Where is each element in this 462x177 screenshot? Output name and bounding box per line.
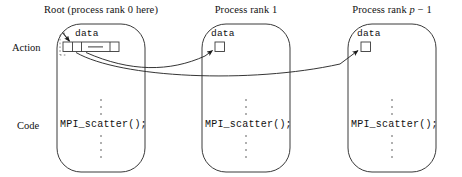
code-line-root: MPI_scatter(); [60,119,147,130]
root-buffer-pointer-icon [63,33,70,42]
data-buffer-rank1 [215,42,225,52]
vertical-ellipsis-root-top [100,99,102,115]
row-label-action: Action [12,42,41,53]
vertical-ellipsis-root-bottom [100,135,102,158]
vertical-ellipsis-rank1-top [245,99,247,115]
data-label-rank1: data [211,28,235,39]
code-line-rank1: MPI_scatter(); [205,119,292,130]
column-title-rankp1-prefix: Process rank [352,4,409,15]
figure-graphics [0,0,462,177]
figure-canvas: Root (process rank 0 here) Process rank … [0,0,462,177]
column-title-rank1: Process rank 1 [196,4,296,15]
scatter-arrow-to-rank1 [86,51,213,68]
code-line-rankp1: MPI_scatter(); [351,119,438,130]
column-title-rankp1-suffix: − 1 [415,4,432,15]
row-label-code: Code [17,120,39,131]
data-buffer-rankp1 [361,42,371,52]
data-label-root: data [75,28,99,39]
data-label-rankp1: data [357,28,381,39]
data-buffer-root [63,42,119,52]
vertical-ellipsis-rankp1-bottom [391,135,393,158]
column-title-rankp1: Process rank p − 1 [332,4,452,15]
vertical-ellipsis-rankp1-top [391,99,393,115]
vertical-ellipsis-rank1-bottom [245,135,247,158]
column-title-root: Root (process rank 0 here) [41,4,161,15]
